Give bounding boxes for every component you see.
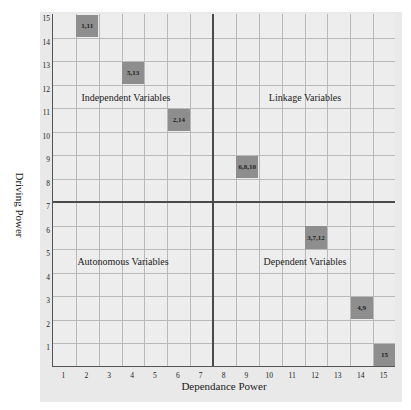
grid-line-horizontal <box>53 179 395 180</box>
grid-line-horizontal <box>53 273 395 274</box>
plot-area: 1,115,132,146,8,103,7,124,915Independent… <box>52 14 395 367</box>
quadrant-label-bottom-left: Autonomous Variables <box>77 256 168 267</box>
data-cell: 2,14 <box>168 109 190 132</box>
x-tick-label: 11 <box>288 371 295 380</box>
y-tick-label: 11 <box>36 108 50 117</box>
grid-line-vertical <box>282 14 283 366</box>
grid-line-horizontal <box>53 320 395 321</box>
x-axis-label: Dependance Power <box>181 380 266 392</box>
x-tick-label: 10 <box>265 371 273 380</box>
data-cell: 15 <box>374 344 396 367</box>
x-tick-label: 4 <box>130 371 134 380</box>
grid-line-vertical <box>190 14 191 366</box>
grid-line-horizontal <box>53 155 395 156</box>
y-tick-label: 12 <box>36 84 50 93</box>
grid-line-horizontal <box>53 108 395 109</box>
grid-line-horizontal <box>53 296 395 297</box>
quadrant-label-bottom-right: Dependent Variables <box>264 256 347 267</box>
grid-line-horizontal <box>53 38 395 39</box>
y-tick-label: 9 <box>36 155 50 164</box>
quadrant-label-top-left: Independent Variables <box>82 92 171 103</box>
x-tick-label: 13 <box>334 371 342 380</box>
y-tick-label: 7 <box>36 202 50 211</box>
data-cell: 3,7,12 <box>305 226 327 249</box>
y-tick-label: 10 <box>36 131 50 140</box>
y-tick-label: 8 <box>36 178 50 187</box>
grid-line-horizontal <box>53 132 395 133</box>
x-tick-label: 3 <box>107 371 111 380</box>
x-tick-label: 8 <box>222 371 226 380</box>
x-tick-label: 2 <box>84 371 88 380</box>
y-tick-label: 2 <box>36 319 50 328</box>
grid-line-horizontal <box>53 249 395 250</box>
grid-line-horizontal <box>53 343 395 344</box>
x-tick-label: 6 <box>176 371 180 380</box>
y-tick-label: 4 <box>36 272 50 281</box>
data-cell: 1,11 <box>76 15 98 38</box>
grid-line-horizontal <box>53 226 395 227</box>
grid-line-vertical <box>76 14 77 366</box>
grid-line-vertical <box>167 14 168 366</box>
grid-line-horizontal <box>53 85 395 86</box>
x-tick-label: 14 <box>357 371 365 380</box>
x-tick-label: 1 <box>62 371 66 380</box>
quadrant-divider-horizontal <box>53 201 395 203</box>
quadrant-label-top-right: Linkage Variables <box>269 92 341 103</box>
y-axis-label: Driving Power <box>14 172 26 237</box>
grid-line-vertical <box>99 14 100 366</box>
x-tick-label: 15 <box>380 371 388 380</box>
grid-line-vertical <box>373 14 374 366</box>
quadrant-divider-vertical <box>212 14 214 366</box>
grid-line-vertical <box>259 14 260 366</box>
data-cell: 6,8,10 <box>236 156 258 179</box>
grid-line-vertical <box>305 14 306 366</box>
x-tick-label: 12 <box>311 371 319 380</box>
y-tick-label: 3 <box>36 296 50 305</box>
y-tick-label: 1 <box>36 343 50 352</box>
y-tick-label: 15 <box>36 14 50 23</box>
data-cell: 4,9 <box>351 297 373 320</box>
y-tick-label: 14 <box>36 37 50 46</box>
x-tick-label: 9 <box>244 371 248 380</box>
y-tick-label: 5 <box>36 249 50 258</box>
y-tick-label: 13 <box>36 61 50 70</box>
x-tick-label: 7 <box>199 371 203 380</box>
grid-line-horizontal <box>53 61 395 62</box>
grid-line-vertical <box>327 14 328 366</box>
grid-line-vertical <box>144 14 145 366</box>
x-tick-label: 5 <box>153 371 157 380</box>
y-tick-label: 6 <box>36 225 50 234</box>
grid-line-vertical <box>236 14 237 366</box>
data-cell: 5,13 <box>122 62 144 85</box>
